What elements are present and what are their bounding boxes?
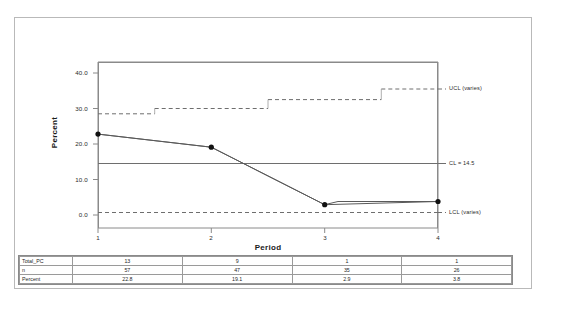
percent-period-3: 2.9 <box>292 275 402 284</box>
x-tick-label-1: 1 <box>86 234 110 241</box>
y-axis-title: Percent <box>50 73 59 193</box>
data-table: Total_PC 13 9 1 1 n 57 47 35 26 Percent … <box>18 255 513 285</box>
table-row: Percent 22.8 19.1 2.9 3.8 <box>20 275 512 284</box>
screenshot-page: 40.0 30.0 20.0 10.0 0.0 1 2 3 4 Percent … <box>0 0 565 314</box>
x-axis-title: Period <box>98 243 438 252</box>
x-tick-label-3: 3 <box>313 234 337 241</box>
total-pc-period-3: 1 <box>292 257 402 266</box>
lcl-label: LCL (varies) <box>449 209 481 215</box>
y-tick-label-0: 0.0 <box>52 211 88 218</box>
x-tick-label-4: 4 <box>426 234 450 241</box>
row-label-total-pc: Total_PC <box>20 257 73 266</box>
percent-period-4: 3.8 <box>402 275 512 284</box>
total-pc-period-1: 13 <box>73 257 183 266</box>
total-pc-period-4: 1 <box>402 257 512 266</box>
n-period-4: 26 <box>402 266 512 275</box>
summary-table: Total_PC 13 9 1 1 n 57 47 35 26 Percent … <box>19 256 512 284</box>
percent-period-2: 19.1 <box>182 275 292 284</box>
plot-area <box>98 62 438 228</box>
row-label-percent: Percent <box>20 275 73 284</box>
n-period-3: 35 <box>292 266 402 275</box>
percent-period-1: 22.8 <box>73 275 183 284</box>
n-period-2: 47 <box>182 266 292 275</box>
ucl-label: UCL (varies) <box>449 85 482 91</box>
table-row: n 57 47 35 26 <box>20 266 512 275</box>
row-label-n: n <box>20 266 73 275</box>
table-row: Total_PC 13 9 1 1 <box>20 257 512 266</box>
cl-label: CL = 14.5 <box>449 160 475 166</box>
n-period-1: 57 <box>73 266 183 275</box>
total-pc-period-2: 9 <box>182 257 292 266</box>
x-tick-label-2: 2 <box>199 234 223 241</box>
